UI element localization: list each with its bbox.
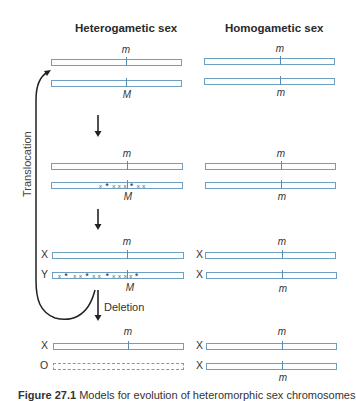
figure-caption: Figure 27.1 Models for evolution of hete… bbox=[18, 389, 356, 401]
caption-text: Models for evolution of heteromorphic se… bbox=[79, 389, 355, 401]
down-arrow-icon bbox=[95, 209, 102, 230]
translocation-label: Translocation bbox=[21, 131, 33, 197]
figure-number: Figure 27.1 bbox=[18, 389, 76, 401]
down-arrow-icon bbox=[95, 115, 102, 137]
translocation-arrow-icon bbox=[36, 72, 95, 319]
deletion-label: Deletion bbox=[104, 301, 144, 313]
deletion-arrow-icon bbox=[95, 290, 102, 321]
